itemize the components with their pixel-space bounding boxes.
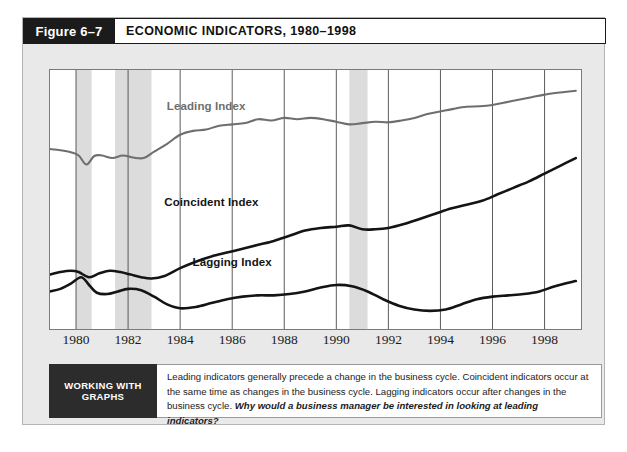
x-tick-1982: 1982 bbox=[115, 332, 142, 348]
series-label-lagging-index: Lagging Index bbox=[193, 256, 272, 268]
caption-band: WORKING WITH GRAPHS Leading indicators g… bbox=[49, 364, 602, 418]
x-tick-1980: 1980 bbox=[63, 332, 90, 348]
x-tick-1998: 1998 bbox=[531, 332, 558, 348]
figure-screenshot: Figure 6–7 ECONOMIC INDICATORS, 1980–199… bbox=[0, 0, 627, 452]
chart-plot-area bbox=[49, 69, 582, 330]
figure-number-label: Figure 6–7 bbox=[35, 24, 102, 39]
x-tick-1988: 1988 bbox=[271, 332, 298, 348]
figure-header: Figure 6–7 ECONOMIC INDICATORS, 1980–199… bbox=[23, 18, 606, 44]
x-tick-1984: 1984 bbox=[167, 332, 194, 348]
x-tick-1992: 1992 bbox=[375, 332, 402, 348]
x-axis-tick-labels: 1980198219841986198819901992199419961998 bbox=[49, 332, 582, 352]
figure-title-container: ECONOMIC INDICATORS, 1980–1998 bbox=[115, 18, 606, 44]
x-tick-1996: 1996 bbox=[479, 332, 506, 348]
figure-frame: Figure 6–7 ECONOMIC INDICATORS, 1980–199… bbox=[22, 17, 605, 425]
x-tick-1994: 1994 bbox=[427, 332, 454, 348]
working-with-graphs-tag: WORKING WITH GRAPHS bbox=[49, 364, 157, 418]
x-tick-1990: 1990 bbox=[323, 332, 350, 348]
caption-tag-label: WORKING WITH GRAPHS bbox=[49, 380, 157, 402]
page-title: ECONOMIC INDICATORS, 1980–1998 bbox=[115, 24, 356, 38]
x-tick-1986: 1986 bbox=[219, 332, 246, 348]
caption-body: Leading indicators generally precede a c… bbox=[157, 364, 602, 418]
figure-number-tab: Figure 6–7 bbox=[23, 18, 115, 44]
series-label-leading-index: Leading Index bbox=[167, 100, 246, 112]
economic-indicators-line-chart bbox=[50, 70, 581, 329]
series-label-coincident-index: Coincident Index bbox=[164, 196, 258, 208]
recession-band-0 bbox=[76, 70, 92, 329]
